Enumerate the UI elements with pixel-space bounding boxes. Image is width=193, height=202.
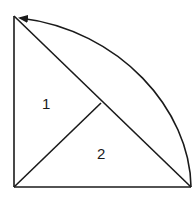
median-line [14, 103, 101, 187]
region-label-1: 1 [42, 96, 50, 111]
geometry-svg [0, 0, 193, 202]
region-label-2: 2 [97, 146, 105, 161]
diagram-canvas: 1 2 [0, 0, 193, 202]
